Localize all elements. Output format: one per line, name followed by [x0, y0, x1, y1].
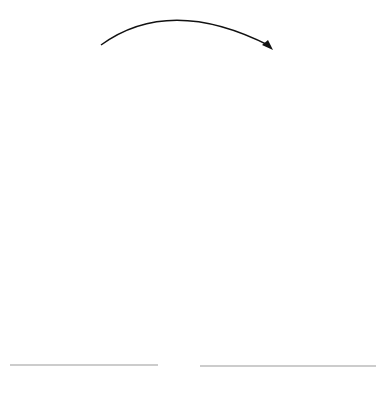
diagram-canvas [0, 0, 386, 395]
curved-arrow-icon [101, 20, 273, 50]
